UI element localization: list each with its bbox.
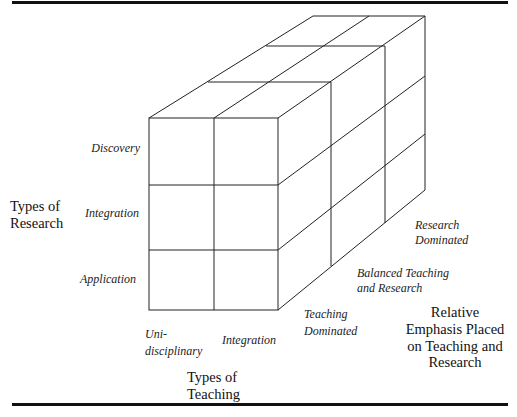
axis-title-research-line1: Types of (10, 198, 63, 215)
axis-title-teaching-line2: Teaching (187, 386, 240, 403)
axis-title-research: Types of Research (10, 198, 63, 233)
axis-title-research-line2: Research (10, 215, 63, 232)
level-integration-research: Integration (70, 206, 139, 221)
axis-title-teaching-line1: Types of (187, 369, 240, 386)
level-research-dominated-line1: Research (415, 218, 468, 233)
level-unidisciplinary-line2: disciplinary (145, 343, 202, 360)
axis-title-emphasis-line2: Emphasis Placed (405, 321, 505, 338)
axis-title-emphasis-line1: Relative (405, 304, 505, 321)
level-balanced-line2: and Research (357, 281, 449, 296)
level-unidisciplinary-line1: Uni- (145, 326, 202, 343)
level-application: Application (70, 272, 136, 287)
bottom-rule (12, 403, 508, 406)
level-discovery: Discovery (86, 141, 140, 156)
level-unidisciplinary: Uni- disciplinary (145, 326, 202, 360)
axis-title-emphasis-line4: Research (405, 354, 505, 371)
level-balanced: Balanced Teaching and Research (357, 266, 449, 296)
level-balanced-line1: Balanced Teaching (357, 266, 449, 281)
level-teaching-dominated-line1: Teaching (304, 306, 357, 323)
level-research-dominated-line2: Dominated (415, 233, 468, 248)
level-integration-teaching: Integration (222, 333, 276, 348)
axis-title-emphasis-line3: on Teaching and (405, 338, 505, 355)
level-research-dominated: Research Dominated (415, 218, 468, 248)
level-teaching-dominated-line2: Dominated (304, 323, 357, 340)
axis-title-teaching: Types of Teaching (187, 369, 240, 404)
level-teaching-dominated: Teaching Dominated (304, 306, 357, 341)
axis-title-emphasis: Relative Emphasis Placed on Teaching and… (405, 304, 505, 371)
